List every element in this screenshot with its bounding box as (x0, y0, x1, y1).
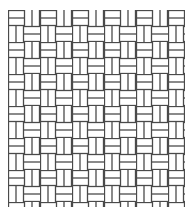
basketweave-diagram (0, 0, 193, 217)
weave-region (8, 10, 185, 207)
